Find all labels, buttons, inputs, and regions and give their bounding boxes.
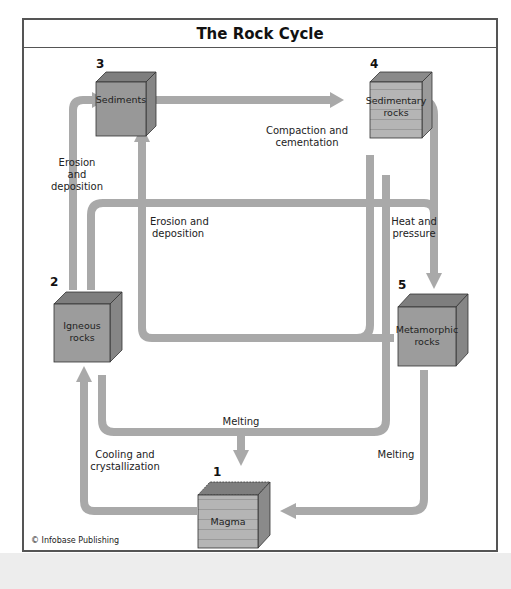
label-heat-1: Heat and <box>391 216 437 227</box>
arrow-erosion-mid <box>142 140 394 338</box>
node-sediments: 3 Sediments <box>96 57 156 136</box>
label-melting-right: Melting <box>378 449 415 460</box>
node-number: 5 <box>398 278 406 292</box>
node-label: Sediments <box>96 94 146 105</box>
label-cooling-2: crystallization <box>90 461 160 472</box>
node-label-line1: Sedimentary <box>366 95 427 106</box>
arrowhead-cooling <box>76 366 92 382</box>
label-melting-center: Melting <box>223 416 260 427</box>
node-number: 2 <box>50 275 58 289</box>
arrowhead-heat <box>426 273 442 289</box>
diagram-frame: The Rock Cycle <box>22 18 498 552</box>
node-label-line2: rocks <box>69 332 94 343</box>
arrowhead-melting-right <box>280 503 296 519</box>
node-label-line1: Igneous <box>63 320 101 331</box>
node-label-line2: rocks <box>414 336 439 347</box>
label-erosion-left-3: deposition <box>51 181 103 192</box>
node-number: 3 <box>96 57 104 71</box>
node-number: 1 <box>213 465 221 479</box>
label-heat-2: pressure <box>392 228 435 239</box>
label-compaction-1: Compaction and <box>266 125 348 136</box>
label-compaction-2: cementation <box>275 137 338 148</box>
node-sedimentary-rocks: 4 Sedimentary rocks <box>366 57 432 138</box>
label-erosion-mid-1: Erosion and <box>150 216 209 227</box>
credit-text: © Infobase Publishing <box>31 536 119 545</box>
arrowhead-compaction <box>330 92 344 108</box>
node-igneous-rocks: 2 Igneous rocks <box>50 275 122 362</box>
arrow-melting-right <box>294 370 424 511</box>
rock-cycle-diagram: 3 Sediments 4 Sedimentary rocks 2 Igneou… <box>24 20 496 550</box>
pipe-sedimentary-erosion <box>357 155 370 338</box>
label-erosion-mid-2: deposition <box>152 228 204 239</box>
node-label: Magma <box>210 516 245 527</box>
node-magma: 1 Magma <box>198 465 270 548</box>
label-erosion-left-1: Erosion <box>59 157 96 168</box>
node-number: 4 <box>370 57 378 71</box>
bottom-band <box>0 553 511 589</box>
node-label-line2: rocks <box>383 107 408 118</box>
arrowhead-melting-center <box>233 450 249 466</box>
node-label-line1: Metamorphic <box>396 324 458 335</box>
label-cooling-1: Cooling and <box>95 449 154 460</box>
node-metamorphic-rocks: 5 Metamorphic rocks <box>396 278 468 366</box>
label-erosion-left-2: and <box>68 169 87 180</box>
